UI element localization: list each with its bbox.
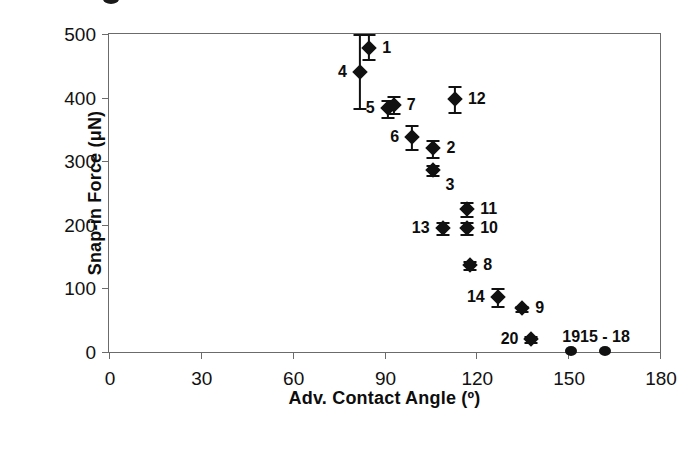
x-axis-tick: 90: [385, 352, 386, 359]
x-axis-tick: 120: [476, 352, 477, 359]
error-bar-cap-bottom: [427, 157, 440, 159]
data-point-label: 11: [480, 201, 497, 217]
data-point-label: 19: [562, 329, 580, 345]
x-axis-tick-label: 30: [191, 368, 212, 390]
data-marker: [404, 129, 420, 145]
error-bar-cap-bottom: [363, 59, 376, 61]
error-bar-cap-top: [406, 125, 419, 127]
data-point-label: 8: [483, 257, 492, 273]
data-marker: [447, 91, 463, 107]
data-point-label: 13: [412, 220, 430, 236]
error-bar-cap-bottom: [381, 117, 394, 119]
data-point-label: 4: [338, 64, 347, 80]
data-point-label: 9: [535, 300, 544, 316]
x-axis-tick: 60: [293, 352, 294, 359]
x-axis-tick-label: 90: [375, 368, 396, 390]
data-point-label: 10: [480, 220, 498, 236]
y-axis-tick-label: 0: [85, 342, 96, 364]
x-axis-tick-label: 180: [645, 368, 677, 390]
x-axis-tick: 0: [109, 352, 110, 359]
y-axis-title: Snap-in Force (μN): [85, 111, 106, 276]
x-axis-tick: 180: [660, 352, 661, 359]
data-point-label: 3: [445, 177, 454, 193]
data-marker: [352, 64, 368, 80]
error-bar-cap-top: [448, 86, 461, 88]
y-axis-tick: 400: [102, 98, 109, 99]
x-axis-tick: 30: [201, 352, 202, 359]
y-axis-tick-label: 200: [64, 215, 96, 237]
error-bar-cap-bottom: [491, 306, 504, 308]
error-bar-cap-bottom: [406, 149, 419, 151]
data-point-label: 1: [382, 40, 391, 56]
data-marker: [426, 141, 442, 157]
y-axis-tick-label: 300: [64, 151, 96, 173]
error-bar-cap-bottom: [448, 112, 461, 114]
data-point-label: 15 - 18: [580, 329, 630, 345]
x-axis-tick-label: 150: [553, 368, 585, 390]
error-bar-cap-top: [363, 34, 376, 36]
data-marker: [599, 346, 611, 356]
y-axis-tick: 300: [102, 161, 109, 162]
x-axis-title: Adv. Contact Angle (º): [289, 388, 481, 409]
x-axis-tick-label: 60: [283, 368, 304, 390]
data-point-label: 14: [467, 289, 485, 305]
error-bar-cap-bottom: [387, 113, 400, 115]
y-axis-tick: 100: [102, 288, 109, 289]
cropped-artifact: [103, 0, 119, 4]
data-point-label: 7: [407, 97, 416, 113]
data-marker: [514, 300, 530, 316]
data-point-label: 20: [501, 331, 519, 347]
data-marker: [524, 331, 540, 347]
data-point-label: 5: [366, 100, 375, 116]
y-axis-tick: 0: [102, 352, 109, 353]
chart-page: Snap-in Force (μN) Adv. Contact Angle (º…: [0, 0, 699, 452]
y-axis-tick: 200: [102, 225, 109, 226]
x-axis-tick-label: 0: [105, 368, 116, 390]
data-marker: [565, 346, 577, 356]
data-point-label: 2: [446, 140, 455, 156]
y-axis-tick-label: 500: [64, 24, 96, 46]
plot-area: Snap-in Force (μN) Adv. Contact Angle (º…: [108, 33, 661, 353]
error-bar-cap-bottom: [354, 108, 367, 110]
x-axis-tick-label: 120: [461, 368, 493, 390]
data-marker: [361, 40, 377, 56]
y-axis-tick: 500: [102, 34, 109, 35]
data-point-label: 6: [390, 129, 399, 145]
y-axis-tick-label: 400: [64, 88, 96, 110]
data-marker: [490, 290, 506, 306]
y-axis-tick-label: 100: [64, 278, 96, 300]
data-point-label: 12: [468, 91, 486, 107]
